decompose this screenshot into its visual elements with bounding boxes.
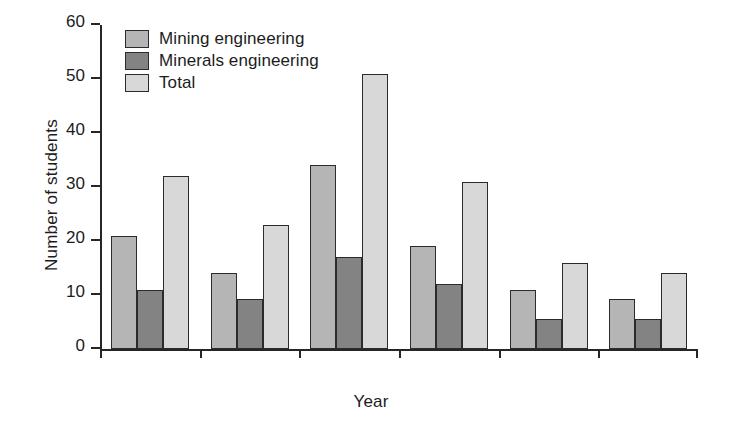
bar (137, 290, 163, 349)
bar-chart: Number of students Year 0102030405060 Mi… (0, 0, 742, 426)
y-tick: 0 (91, 347, 100, 349)
bar (263, 225, 289, 349)
y-axis-line (100, 25, 102, 349)
bar (436, 284, 462, 349)
x-tick (299, 349, 301, 358)
x-tick (100, 349, 102, 358)
y-tick: 40 (91, 131, 100, 133)
legend-item-total: Total (125, 72, 319, 93)
bar (562, 263, 588, 349)
bar (336, 257, 362, 349)
chart-legend: Mining engineering Minerals engineering … (125, 28, 319, 94)
y-tick-label: 40 (66, 120, 85, 140)
bar (211, 273, 237, 349)
x-tick (399, 349, 401, 358)
bar (510, 290, 536, 349)
y-tick-label: 30 (66, 174, 85, 194)
legend-label-total: Total (159, 73, 195, 93)
y-tick: 10 (91, 293, 100, 295)
bar (362, 74, 388, 349)
x-tick (598, 349, 600, 358)
x-tick (200, 349, 202, 358)
y-tick-label: 50 (66, 66, 85, 86)
legend-item-minerals-engineering: Minerals engineering (125, 50, 319, 71)
bar (635, 319, 661, 349)
x-tick (696, 349, 698, 358)
y-tick: 50 (91, 77, 100, 79)
y-tick-label: 10 (66, 282, 85, 302)
y-tick: 60 (91, 23, 100, 25)
legend-swatch-minerals-engineering (125, 52, 149, 70)
y-axis-title: Number of students (42, 65, 62, 325)
legend-item-mining-engineering: Mining engineering (125, 28, 319, 49)
y-tick-label: 20 (66, 228, 85, 248)
bar (237, 299, 263, 349)
bar (661, 273, 687, 349)
y-tick: 20 (91, 239, 100, 241)
y-tick-label: 60 (66, 12, 85, 32)
legend-swatch-total (125, 74, 149, 92)
bar (111, 236, 137, 349)
bar (609, 299, 635, 349)
bar (310, 165, 336, 349)
x-axis-title: Year (0, 392, 742, 412)
legend-label-minerals-engineering: Minerals engineering (159, 51, 319, 71)
bar (462, 182, 488, 349)
legend-swatch-mining-engineering (125, 30, 149, 48)
y-tick: 30 (91, 185, 100, 187)
bar (536, 319, 562, 349)
bar (410, 246, 436, 349)
x-tick (499, 349, 501, 358)
y-tick-label: 0 (76, 336, 85, 356)
legend-label-mining-engineering: Mining engineering (159, 29, 304, 49)
bar (163, 176, 189, 349)
